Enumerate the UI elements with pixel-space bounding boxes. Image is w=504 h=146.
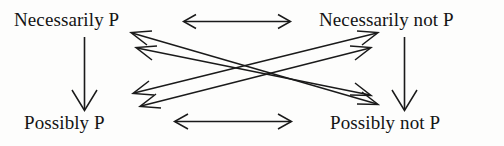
top-horizontal-arrow-icon xyxy=(184,15,291,29)
left-vertical-down-arrow-icon xyxy=(72,37,97,111)
diagonal-arrow-lower-nw-se-icon xyxy=(136,46,371,96)
modal-square-of-opposition-figure: Necessarily P Necessarily not P Possibly… xyxy=(0,0,504,146)
right-vertical-down-arrow-icon xyxy=(392,37,417,111)
arrow-layer xyxy=(0,0,504,146)
diagonal-arrow-upper-sw-ne-icon xyxy=(133,31,378,95)
bottom-horizontal-arrow-icon xyxy=(175,114,292,129)
